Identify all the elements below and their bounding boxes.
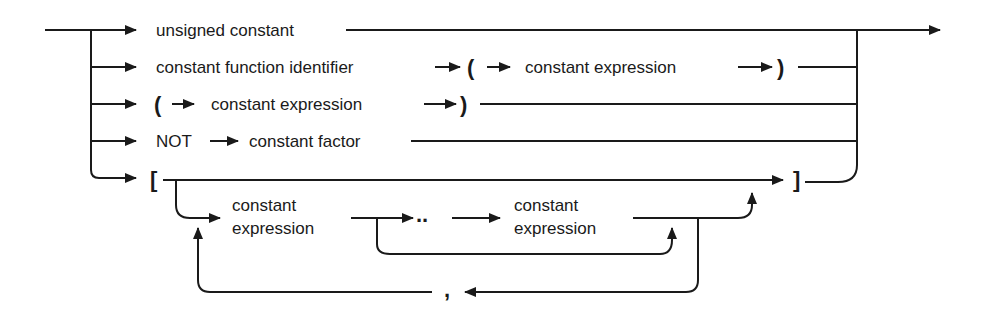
- element-end-label-line1: constant: [514, 196, 579, 215]
- alternative-parenthesized-expression: ( constant expression ): [91, 92, 857, 117]
- entry-connector: [45, 30, 99, 178]
- open-paren-symbol: (: [467, 55, 475, 80]
- unsigned-constant-label: unsigned constant: [156, 21, 294, 40]
- arrow-icon: [633, 193, 752, 218]
- constant-factor-label: constant factor: [249, 132, 361, 151]
- alternative-not-factor: NOT constant factor: [91, 132, 857, 151]
- arrow-icon: [176, 180, 220, 218]
- separator-comma-symbol: ,: [444, 277, 450, 302]
- close-paren-symbol: ): [460, 92, 467, 117]
- close-paren-symbol: ): [777, 55, 784, 80]
- alternative-unsigned-constant: unsigned constant: [91, 21, 857, 40]
- not-keyword: NOT: [156, 132, 192, 151]
- element-start-label-line2: expression: [232, 219, 314, 238]
- element-end-label-line2: expression: [514, 219, 596, 238]
- element-start-label-line1: constant: [232, 196, 297, 215]
- range-operator-symbol: ..: [416, 202, 428, 227]
- alternative-constant-function: constant function identifier ( constant …: [91, 55, 857, 80]
- syntax-diagram: unsigned constant constant function iden…: [0, 0, 986, 321]
- constant-expression-label: constant expression: [211, 95, 362, 114]
- open-bracket-symbol: [: [150, 167, 158, 192]
- close-bracket-symbol: ]: [793, 167, 800, 192]
- constant-function-identifier-label: constant function identifier: [156, 58, 354, 77]
- constant-expression-label: constant expression: [525, 58, 676, 77]
- open-paren-symbol: (: [154, 92, 162, 117]
